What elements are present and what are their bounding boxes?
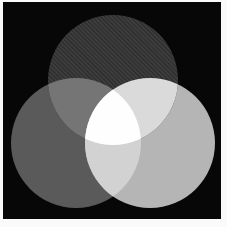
venn-diagram [0, 0, 227, 227]
figure [0, 0, 227, 227]
